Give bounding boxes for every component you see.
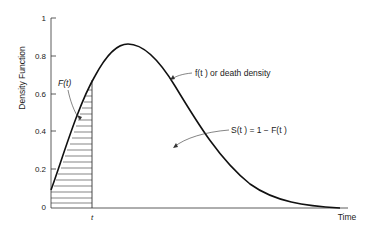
x-axis-label: Time: [338, 212, 357, 222]
ytick-0.2: 0.2: [35, 165, 47, 174]
xtick-t: t: [91, 213, 94, 222]
ytick-0.4: 0.4: [35, 127, 47, 136]
S-arrowhead-icon: [173, 143, 178, 148]
f-arrowhead-icon: [170, 75, 175, 80]
S-arrow-icon: [174, 130, 229, 147]
F-label: F(t): [58, 78, 71, 88]
hatched-area-F: [51, 80, 92, 208]
ytick-0.8: 0.8: [35, 52, 47, 61]
S-label: S(t ) = 1 − F(t ): [231, 125, 287, 135]
y-ticks: 1 0.8 0.6 0.4 0.2 0: [35, 14, 56, 212]
f-label: f(t ) or death density: [195, 68, 271, 78]
y-axis-label: Density Function: [17, 46, 27, 110]
ytick-0: 0: [42, 203, 47, 212]
density-chart: 1 0.8 0.6 0.4 0.2 0 Density Function t: [0, 0, 370, 234]
ytick-1: 1: [42, 14, 47, 23]
ytick-0.6: 0.6: [35, 90, 47, 99]
